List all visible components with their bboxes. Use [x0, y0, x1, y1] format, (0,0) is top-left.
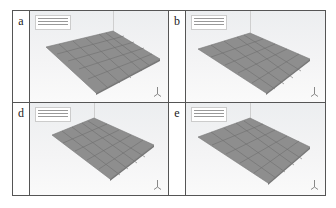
viewport — [30, 11, 168, 102]
mesh-plate — [30, 11, 168, 102]
mesh-plate — [186, 11, 325, 102]
panel-a: a — [13, 11, 169, 103]
viewport — [186, 103, 325, 195]
panel-label: a — [13, 11, 30, 102]
panel-label: b — [169, 11, 186, 102]
viewport — [186, 11, 325, 102]
panel-b: b — [169, 11, 325, 103]
axis-triad-icon — [310, 86, 319, 97]
figure-table: a b — [12, 10, 326, 196]
axis-triad-icon — [153, 86, 162, 97]
axis-triad-icon — [310, 179, 319, 190]
viewport — [30, 103, 168, 195]
panel-d: d — [13, 103, 169, 195]
mesh-plate — [186, 103, 325, 195]
panel-label: e — [169, 103, 186, 195]
mesh-plate — [30, 103, 168, 195]
axis-triad-icon — [153, 179, 162, 190]
panel-e: e — [169, 103, 325, 195]
panel-label: d — [13, 103, 30, 195]
